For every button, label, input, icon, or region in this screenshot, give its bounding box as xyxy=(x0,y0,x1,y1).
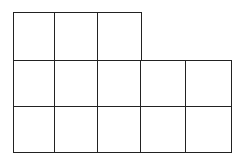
grid-square xyxy=(185,60,232,108)
grid-square xyxy=(97,106,142,153)
grid-square xyxy=(54,12,99,62)
grid-diagram xyxy=(0,0,240,157)
grid-square xyxy=(140,60,187,108)
grid-square xyxy=(97,12,142,62)
grid-square xyxy=(140,106,187,153)
grid-square xyxy=(54,106,99,153)
grid-square xyxy=(13,12,56,62)
grid-square xyxy=(13,60,56,108)
grid-square xyxy=(97,60,142,108)
grid-square xyxy=(185,106,232,153)
grid-square xyxy=(13,106,56,153)
grid-square xyxy=(54,60,99,108)
